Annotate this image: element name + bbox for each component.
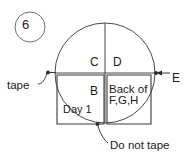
do-not-tape-callout-leader	[98, 126, 108, 143]
item-number-label: 6	[22, 18, 29, 32]
quadrant-label-back-of: Back of F,G,H	[109, 83, 147, 106]
tape-callout-leader	[38, 73, 47, 84]
quadrant-label-c: C	[90, 56, 99, 69]
quadrant-sublabel-day: Day 1	[63, 104, 92, 116]
callout-label-tape: tape	[7, 79, 29, 91]
item-number-badge-circle	[15, 12, 45, 42]
quadrant-label-b: B	[90, 85, 98, 98]
callout-label-e: E	[172, 72, 180, 85]
do-not-tape-callout-anchor-dot	[96, 122, 100, 126]
back-of-line-2: F,G,H	[109, 94, 147, 106]
callout-label-do-not-tape: Do not tape	[110, 139, 169, 151]
quadrant-label-d: D	[113, 56, 122, 69]
e-callout-anchor-dot	[154, 71, 158, 75]
figure-canvas: 6 C D B Day 1 Back of F,G,H tape E Do no…	[0, 0, 189, 162]
